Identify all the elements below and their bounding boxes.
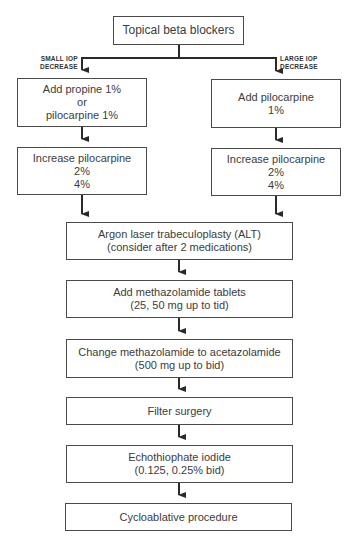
node-text: 1% <box>268 104 284 117</box>
small-iop-decrease-label: SMALL IOP DECREASE <box>40 55 78 71</box>
node-text: 2% <box>74 165 90 178</box>
node-text: or <box>77 96 87 109</box>
node-change-to-acetazolamide: Change methazolamide to acetazolamide (5… <box>66 339 293 378</box>
node-text: Echothiophate iodide <box>128 451 231 464</box>
node-topical-beta-blockers: Topical beta blockers <box>113 16 244 45</box>
node-text: Topical beta blockers <box>122 24 234 37</box>
node-text: Increase pilocarpine <box>33 152 131 165</box>
node-text: Cycloablative procedure <box>119 511 237 524</box>
node-text: Filter surgery <box>147 405 211 418</box>
node-text: (consider after 2 medications) <box>107 241 252 254</box>
node-text: 2% <box>268 166 284 179</box>
node-text: Add propine 1% <box>43 83 121 96</box>
node-text: Add methazolamide tablets <box>113 286 246 299</box>
node-text: 4% <box>268 179 284 192</box>
node-text: 4% <box>74 178 90 191</box>
node-argon-laser-trabeculoplasty: Argon laser trabeculoplasty (ALT) (consi… <box>66 222 293 260</box>
node-echothiophate-iodide: Echothiophate iodide (0.125, 0.25% bid) <box>66 445 293 483</box>
node-add-propine-or-pilocarpine: Add propine 1% or pilocarpine 1% <box>17 78 147 127</box>
node-cycloablative-procedure: Cycloablative procedure <box>65 503 292 531</box>
label-line: LARGE IOP <box>280 55 318 63</box>
node-text: (500 mg up to bid) <box>135 359 224 372</box>
label-line: SMALL IOP <box>40 55 78 63</box>
node-text: Increase pilocarpine <box>227 153 325 166</box>
node-increase-pilocarpine-right: Increase pilocarpine 2% 4% <box>211 148 341 196</box>
node-text: pilocarpine 1% <box>46 109 118 122</box>
large-iop-decrease-label: LARGE IOP DECREASE <box>280 55 318 71</box>
node-add-methazolamide: Add methazolamide tablets (25, 50 mg up … <box>66 280 293 318</box>
node-text: (0.125, 0.25% bid) <box>135 464 225 477</box>
label-line: DECREASE <box>280 63 318 71</box>
node-increase-pilocarpine-left: Increase pilocarpine 2% 4% <box>17 147 147 195</box>
node-add-pilocarpine: Add pilocarpine 1% <box>211 79 341 128</box>
node-text: (25, 50 mg up to tid) <box>130 299 228 312</box>
node-text: Change methazolamide to acetazolamide <box>78 346 280 359</box>
label-line: DECREASE <box>40 63 78 71</box>
node-filter-surgery: Filter surgery <box>66 397 293 425</box>
node-text: Argon laser trabeculoplasty (ALT) <box>98 228 261 241</box>
node-text: Add pilocarpine <box>238 91 314 104</box>
